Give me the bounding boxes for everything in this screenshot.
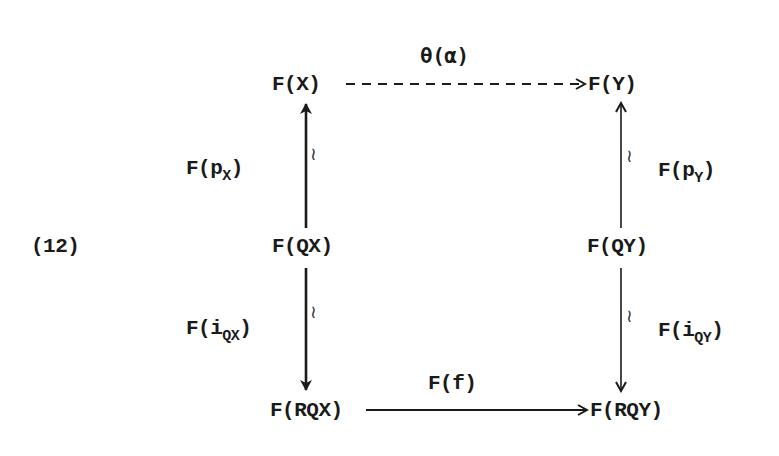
label-F-pX-sub: X	[222, 168, 231, 185]
node-FQY: F(QY)	[587, 236, 648, 257]
label-F-pX-main: F(p	[186, 157, 222, 180]
label-F-iQX: F(iQX)	[186, 318, 251, 344]
node-FX: F(X)	[272, 74, 320, 95]
label-F-pX: F(pX)	[186, 158, 243, 184]
label-F-f: F(f)	[428, 373, 476, 394]
iso-mark-left-lower: ≀	[310, 303, 317, 321]
diagram-arrows	[0, 0, 779, 456]
label-F-pY-main: F(p	[658, 159, 694, 182]
iso-mark-left-upper: ≀	[310, 145, 317, 163]
label-F-pX-close: )	[231, 157, 243, 180]
iso-mark-right-upper: ≀	[626, 147, 633, 165]
node-FQX: F(QX)	[272, 236, 333, 257]
label-theta-alpha: θ(α)	[420, 46, 469, 67]
label-F-pY-sub: Y	[694, 170, 703, 187]
label-F-iQY: F(iQY)	[658, 320, 723, 346]
label-F-iQY-main: F(i	[658, 319, 694, 342]
node-FRQX: F(RQX)	[270, 400, 343, 421]
label-F-pY: F(pY)	[658, 160, 715, 186]
label-F-iQY-close: )	[711, 319, 723, 342]
node-FRQY: F(RQY)	[590, 400, 663, 421]
label-F-iQX-close: )	[239, 317, 251, 340]
iso-mark-right-lower: ≀	[626, 307, 633, 325]
equation-number: (12)	[31, 236, 79, 257]
label-F-iQX-main: F(i	[186, 317, 222, 340]
label-F-iQY-sub: QY	[694, 330, 711, 347]
node-FY: F(Y)	[588, 74, 636, 95]
label-F-iQX-sub: QX	[222, 328, 239, 345]
label-F-pY-close: )	[703, 159, 715, 182]
